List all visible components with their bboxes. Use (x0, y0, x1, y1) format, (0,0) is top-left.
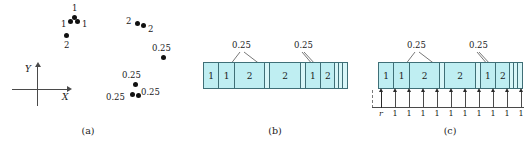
point-label: 0.25 (122, 71, 141, 80)
ruler-label: 1 (404, 110, 414, 118)
point-label: 1 (72, 4, 77, 13)
ruler-label: 1 (418, 110, 428, 118)
bar-cell: 2 (270, 63, 301, 88)
ruler-arrow-icon (505, 88, 509, 92)
point-label: 2 (64, 41, 69, 50)
bar-cell: 2 (445, 63, 476, 88)
ruler-label: 1 (502, 110, 512, 118)
data-point (75, 19, 80, 24)
ruler-label: 1 (460, 110, 470, 118)
bar-cell: 1 (481, 63, 496, 88)
ruler-arrow-icon (407, 88, 411, 92)
ruler-tick (423, 92, 424, 108)
point-label: 2 (148, 25, 153, 34)
ruler-label: 1 (474, 110, 484, 118)
data-point (135, 21, 140, 26)
ruler-tick (395, 92, 396, 108)
ruler-tick (465, 92, 466, 108)
bar-cell: 1 (379, 63, 394, 88)
ruler-arrow-icon (477, 88, 481, 92)
x-axis-label: X (62, 93, 68, 102)
bar-cell-narrow (343, 63, 347, 88)
bar-cell: 2 (496, 63, 510, 88)
point-label: 1 (61, 20, 66, 29)
ruler-tick (437, 92, 438, 108)
ruler-tick (451, 92, 452, 108)
ruler-arrow-icon (379, 88, 383, 92)
ruler-tick (521, 92, 522, 108)
data-point (130, 92, 135, 97)
ruler-arrow-icon (463, 88, 467, 92)
ruler-tick (479, 92, 480, 108)
ruler-tick (493, 92, 494, 108)
data-point (133, 82, 138, 87)
ruler-label: 1 (516, 110, 526, 118)
bar-cell: 2 (410, 63, 441, 88)
point-label: 0.25 (141, 88, 160, 97)
y-axis-arrow-icon (35, 62, 41, 67)
data-point (161, 55, 166, 60)
bar-cell: 1 (204, 63, 219, 88)
ruler-tick (507, 92, 508, 108)
ruler-dashed-edge (372, 90, 373, 108)
data-point (68, 19, 73, 24)
ruler-arrow-icon (421, 88, 425, 92)
ruler-arrow-stem (381, 92, 382, 108)
y-axis-label: Y (25, 65, 31, 74)
point-label: 1 (82, 20, 87, 29)
ruler-label: r (376, 110, 386, 118)
ruler-tick (409, 92, 410, 108)
bar-b: 1 1 2 2 1 2 (203, 62, 348, 89)
panel-caption-a: (a) (68, 126, 108, 136)
scatter-plot: Y X 1 1 1 2 2 2 0.25 0.25 0.25 0.25 (0, 0, 180, 118)
ruler-label: 1 (432, 110, 442, 118)
panel-caption-c: (c) (430, 126, 470, 136)
data-point (64, 33, 69, 38)
panel-a: Y X 1 1 1 2 2 2 0.25 0.25 0.25 0.25 (a (0, 0, 180, 150)
data-point (141, 23, 146, 28)
ruler-arrow-icon (519, 88, 523, 92)
bar-cell: 2 (235, 63, 266, 88)
point-label: 0.25 (152, 44, 171, 53)
bar-cell: 1 (306, 63, 321, 88)
bar-cell: 1 (394, 63, 409, 88)
bar-cell: 2 (321, 63, 335, 88)
panel-c: 0.25 0.25 1 1 2 2 1 2 (350, 0, 516, 150)
ruler-label: 1 (446, 110, 456, 118)
panel-caption-b: (b) (255, 126, 295, 136)
point-label: 2 (126, 17, 131, 26)
point-label: 0.25 (106, 93, 125, 102)
x-axis-line (12, 89, 68, 90)
bar-c: 1 1 2 2 1 2 (378, 62, 523, 89)
ruler-arrow-icon (449, 88, 453, 92)
ruler-arrow-icon (435, 88, 439, 92)
bar-cell: 1 (219, 63, 234, 88)
panel-b: 0.25 0.25 1 1 2 2 1 2 (b) (180, 0, 350, 150)
ruler-label: 1 (390, 110, 400, 118)
y-axis-line (37, 66, 38, 106)
ruler-label: 1 (488, 110, 498, 118)
bar-cell-narrow (518, 63, 522, 88)
ruler-arrow-icon (393, 88, 397, 92)
ruler-arrow-icon (491, 88, 495, 92)
